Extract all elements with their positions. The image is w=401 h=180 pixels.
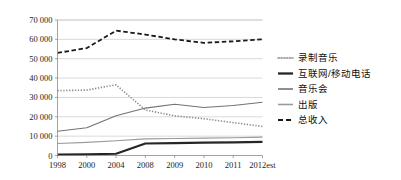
y-axis-tick-label: 50 000 [29, 54, 52, 64]
axis-lines [58, 20, 263, 156]
y-axis-tick-label: 40 000 [29, 73, 52, 83]
y-axis-tick-label: 60 000 [29, 34, 52, 44]
y-axis-tick-label: 30 000 [29, 92, 52, 102]
legend-item-label[interactable]: 互联网/移动电话 [298, 68, 371, 79]
legend-item-label[interactable]: 音乐会 [298, 83, 328, 94]
x-axis-tick-label: 2000 [78, 160, 95, 170]
gridlines [55, 20, 263, 156]
x-axis-tick-label: 2012est [249, 160, 276, 170]
y-axis-tick-label: 10 000 [29, 131, 52, 141]
series-line [58, 31, 263, 53]
legend-item-label[interactable]: 出版 [298, 99, 318, 110]
y-axis-tick-labels: 70 00060 00050 00040 00030 00020 00010 0… [29, 15, 52, 161]
chart-figure: 70 00060 00050 00040 00030 00020 00010 0… [0, 0, 401, 180]
x-axis-tick-label: 2004 [108, 160, 126, 170]
x-axis-tick-label: 2010 [195, 160, 212, 170]
line-chart-plot: 70 00060 00050 00040 00030 00020 00010 0… [0, 0, 401, 180]
x-axis-tick-label: 2009 [166, 160, 183, 170]
y-axis-tick-label: 20 000 [29, 112, 52, 122]
chart-legend: 录制音乐互联网/移动电话音乐会出版总收入 [278, 52, 371, 125]
series-line [58, 142, 263, 155]
y-axis-tick-label: 70 000 [29, 15, 52, 25]
legend-item-label[interactable]: 录制音乐 [298, 52, 338, 63]
x-axis-tick-label: 1998 [49, 160, 66, 170]
x-axis-tick-labels: 19982000200420082009201020112012est [49, 160, 276, 170]
x-axis-tick-label: 2011 [225, 160, 242, 170]
legend-item-label[interactable]: 总收入 [298, 114, 328, 125]
x-axis-tick-label: 2008 [137, 160, 154, 170]
